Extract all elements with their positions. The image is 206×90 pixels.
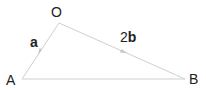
vertex-label-a: A xyxy=(6,72,16,88)
vector-coefficient: 2 xyxy=(120,29,128,45)
vertex-label-o: O xyxy=(51,4,62,20)
arrow-icon-ob xyxy=(120,49,127,53)
vector-label-a: a xyxy=(30,34,38,50)
vector-label-2b: 2b xyxy=(120,29,136,45)
vertex-label-b: B xyxy=(189,71,198,87)
vector-symbol-b: b xyxy=(128,29,137,45)
vector-triangle-diagram: O A B a 2b xyxy=(0,0,206,90)
